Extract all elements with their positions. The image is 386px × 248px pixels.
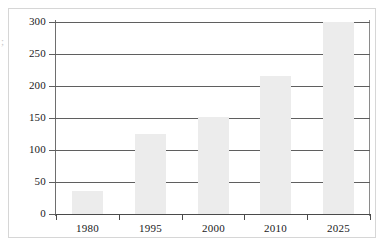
y-axis-tick-label: 200	[18, 79, 46, 91]
y-axis-tick	[49, 214, 56, 215]
x-axis-tick	[182, 214, 183, 220]
y-axis-tick-label: 0	[18, 207, 46, 219]
bar	[135, 134, 166, 214]
bar	[323, 22, 354, 214]
y-axis-tick	[49, 54, 56, 55]
x-axis-tick	[307, 214, 308, 220]
plot-area	[56, 22, 370, 214]
x-axis-tick	[119, 214, 120, 220]
y-axis-tick	[49, 22, 56, 23]
y-axis-tick	[49, 86, 56, 87]
gridline	[56, 214, 370, 215]
bar	[72, 191, 103, 214]
x-axis-tick-label: 2000	[182, 222, 245, 234]
x-axis-tick-label: 1980	[56, 222, 119, 234]
x-axis-tick-label: 1995	[119, 222, 182, 234]
y-axis-tick	[49, 118, 56, 119]
x-axis-tick	[244, 214, 245, 220]
y-axis-tick-label: 150	[18, 111, 46, 123]
y-axis-tick-label: 250	[18, 47, 46, 59]
bar	[198, 117, 229, 214]
y-axis-tick-label: 100	[18, 143, 46, 155]
bar-chart-figure: ; 050100150200250300 1980199520002010202…	[0, 0, 386, 248]
bar	[260, 76, 291, 214]
x-axis-tick	[370, 214, 371, 220]
y-axis-tick-label: 300	[18, 15, 46, 27]
x-axis-tick	[56, 214, 57, 220]
x-axis-tick-label: 2025	[307, 222, 370, 234]
y-axis-tick-label: 50	[18, 175, 46, 187]
y-axis-tick	[49, 150, 56, 151]
x-axis-tick-label: 2010	[244, 222, 307, 234]
y-axis-tick	[49, 182, 56, 183]
